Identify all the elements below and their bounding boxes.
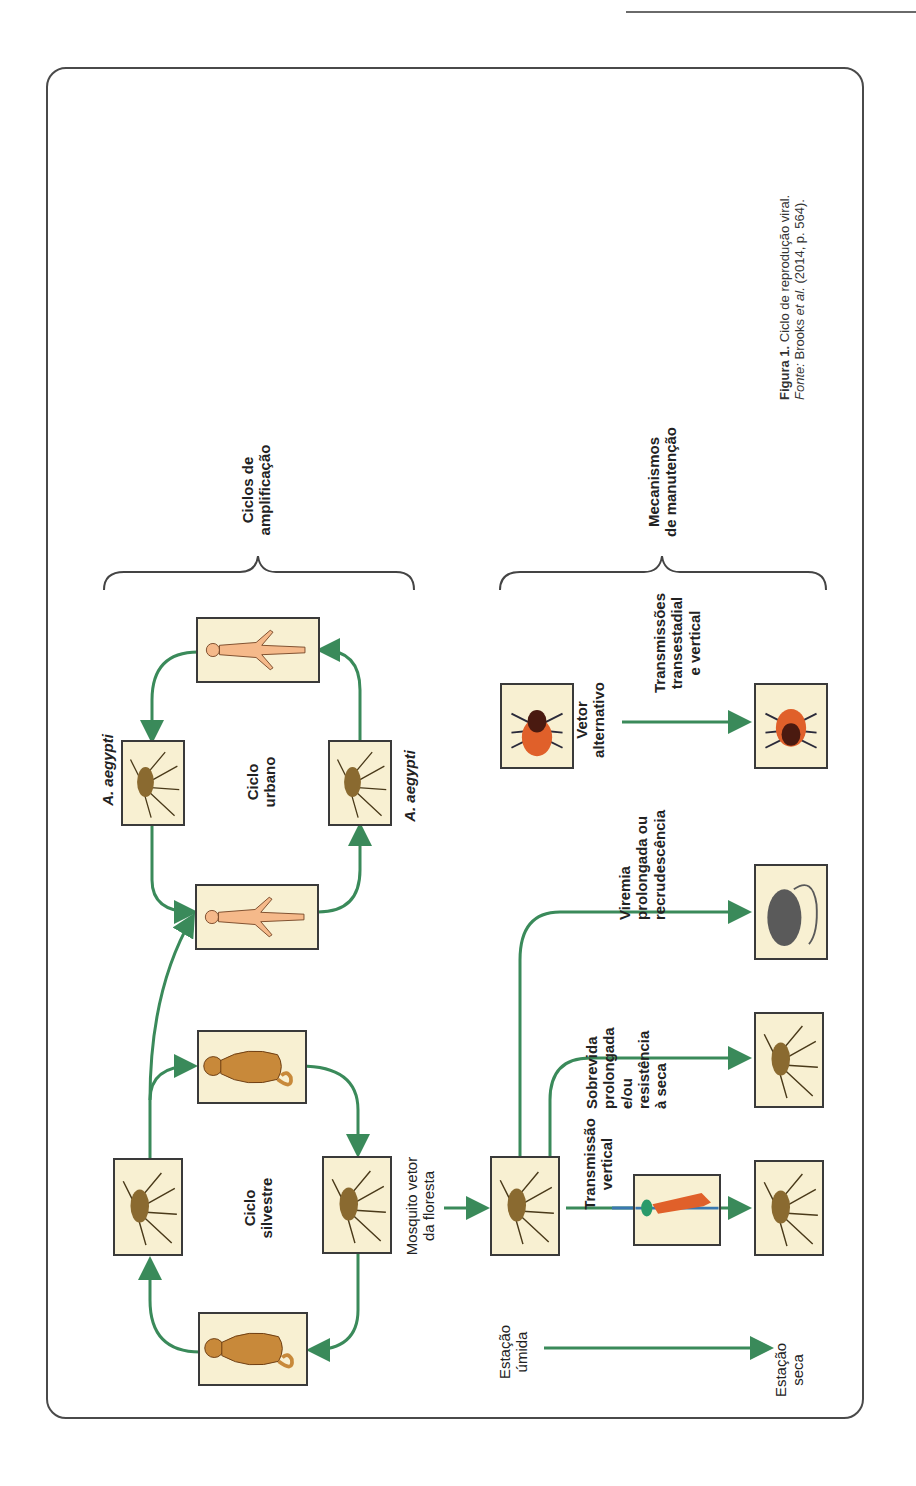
tick-icon (754, 683, 828, 769)
caption-text: Ciclo de reprodução viral. (777, 195, 792, 342)
monkey-icon (197, 1030, 307, 1104)
source-year: (2014, p. 564). (792, 199, 807, 284)
transstadial-label: Transmissõestransestadiale vertical (651, 583, 709, 703)
wet-season-label: Estaçãoúmida (496, 1312, 536, 1392)
alternative-vector-label: Vetoralternativo (573, 675, 613, 765)
urban-cycle-label: Ciclourbano (244, 742, 284, 822)
human-icon (195, 884, 319, 950)
mosquito-icon (113, 1158, 183, 1256)
figure-caption: Figura 1. Ciclo de reprodução viral. Fon… (778, 120, 818, 400)
rat-icon (754, 864, 828, 960)
monkey-icon (198, 1312, 308, 1386)
mosquito-icon (322, 1156, 392, 1254)
source-author: Brooks (792, 319, 807, 359)
amplification-cycles-label: Ciclos deamplificação (239, 425, 279, 555)
viremia-label: Viremiaprolongada ourecrudescência (616, 790, 674, 920)
forest-mosquito-label: Mosquito vetorda floresta (403, 1141, 443, 1271)
sylvatic-cycle-label: Ciclosilvestre (241, 1153, 281, 1263)
source-etal: et al. (792, 287, 807, 315)
tick-icon (500, 683, 574, 769)
amplification-brace (104, 556, 414, 590)
mosquito-icon (490, 1156, 560, 1256)
dry-season-label: Estaçãoseca (772, 1330, 812, 1410)
mosquito-icon (121, 740, 185, 826)
survival-label: Sobrevidaprolongadae/ouresistênciaà seca (583, 999, 679, 1109)
aegypti-top-label: A. aegypti (99, 725, 119, 815)
mosquito-icon (328, 740, 392, 826)
maintenance-mechanisms-label: Mecanismosde manutenção (645, 407, 685, 557)
caption-label: Figura 1. (777, 346, 792, 400)
human-icon (196, 617, 320, 683)
mosquito-icon (754, 1160, 824, 1256)
mosquito-icon (754, 1012, 824, 1108)
aegypti-bottom-label: A. aegypti (401, 741, 421, 831)
larva-icon (633, 1174, 721, 1246)
vertical-transmission-label: Transmissãovertical (581, 1109, 621, 1219)
source-label: Fonte: (792, 363, 807, 400)
